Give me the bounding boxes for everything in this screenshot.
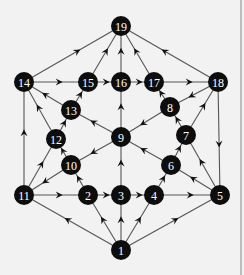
node-14: 14 [14,72,34,92]
node-8: 8 [160,97,180,117]
node-label: 9 [118,131,124,145]
node-11: 11 [14,185,34,205]
node-label: 18 [212,76,224,90]
edge-18-to-5 [218,82,220,195]
edge-1-to-11 [24,195,121,250]
node-19: 19 [111,16,131,36]
node-label: 1 [118,244,124,258]
arrowhead-icon [159,90,166,98]
arrowhead-icon [101,217,108,225]
edge-1-to-5 [121,195,220,250]
node-4: 4 [144,185,164,205]
node-label: 5 [217,189,223,203]
node-17: 17 [144,72,164,92]
arrowhead-icon [101,48,108,56]
node-1: 1 [111,240,131,260]
node-label: 14 [18,76,30,90]
node-12: 12 [46,129,66,149]
arrowhead-icon [199,103,206,111]
node-label: 10 [65,159,77,173]
node-label: 13 [65,104,77,118]
graph-canvas: 12345678910111213141516171819 [0,0,244,275]
node-13: 13 [61,100,81,120]
node-16: 16 [111,72,131,92]
node-7: 7 [176,125,196,145]
arrowhead-icon [134,217,141,225]
node-label: 7 [183,129,189,143]
arrowhead-icon [76,92,83,100]
node-label: 17 [148,76,160,90]
node-9: 9 [111,127,131,147]
arrowhead-icon [134,48,141,56]
node-18: 18 [208,72,228,92]
node-label: 19 [115,20,127,34]
edge-18-to-19 [121,26,218,82]
arrowhead-icon [140,119,148,126]
node-label: 15 [82,76,94,90]
node-2: 2 [78,185,98,205]
node-label: 2 [85,189,91,203]
node-15: 15 [78,72,98,92]
node-label: 3 [118,189,124,203]
arrowhead-icon [190,177,198,184]
directed-graph: 12345678910111213141516171819 [0,0,244,275]
edge-5-to-7 [186,135,220,195]
node-label: 12 [50,133,62,147]
node-label: 4 [151,189,157,203]
node-5: 5 [210,185,230,205]
node-label: 11 [18,189,30,203]
arrowhead-icon [42,177,50,184]
node-6: 6 [161,155,181,175]
edge-14-to-19 [24,26,121,82]
node-label: 16 [115,76,127,90]
node-label: 8 [167,101,173,115]
node-3: 3 [111,185,131,205]
node-10: 10 [61,155,81,175]
node-label: 6 [168,159,174,173]
